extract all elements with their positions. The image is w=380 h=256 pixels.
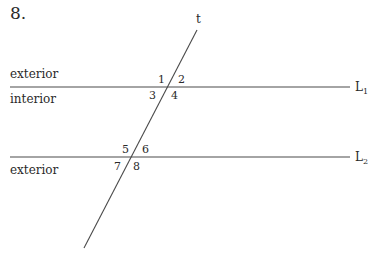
problem-number: 8. [10,3,26,23]
angle-1: 1 [158,73,165,86]
interior-label: interior [10,92,56,106]
angle-7: 7 [114,160,121,173]
line-label-l1: L1 [355,80,368,96]
line-l2-sub: 2 [363,157,368,166]
exterior-label-bottom: exterior [10,163,58,177]
transversal-t [84,30,197,248]
line-label-l2: L2 [355,150,368,166]
diagram-canvas [0,0,380,256]
line-l2-name: L [355,150,363,164]
angle-6: 6 [142,143,149,156]
transversal-label: t [196,12,201,26]
line-l1-sub: 1 [363,87,368,96]
angle-8: 8 [133,160,140,173]
angle-2: 2 [178,73,185,86]
angle-4: 4 [171,89,178,102]
angle-5: 5 [122,143,129,156]
angle-3: 3 [149,89,156,102]
line-l1-name: L [355,80,363,94]
exterior-label-top: exterior [10,67,58,81]
